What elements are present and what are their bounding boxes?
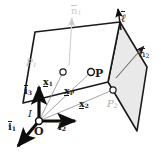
point-p-marker	[88, 69, 95, 76]
origin-label: O	[34, 126, 44, 137]
diagram-canvas	[0, 0, 161, 157]
point-on-plane-1-marker	[60, 69, 66, 75]
reference-frame-label: I	[28, 109, 32, 119]
axis-i1-label: i1	[8, 122, 16, 133]
axis-i2-label: i2	[58, 122, 66, 133]
geometry-diagram-figure: n1 n2 ℓ P1 P2 P x1 xP x2 i1 i2 i3 I O	[0, 0, 161, 157]
axis-i3-label: i3	[24, 86, 32, 97]
point-p-label: P	[95, 68, 103, 79]
plane-2-label: P2	[107, 99, 118, 110]
position-vector-x1-label: x1	[43, 77, 53, 87]
normal-1-label: n1	[71, 6, 81, 17]
normal-2-label: n2	[139, 49, 149, 60]
point-on-plane-2-marker	[110, 87, 116, 93]
line-direction-label: ℓ	[121, 13, 126, 24]
position-vector-x2-label: x2	[79, 99, 89, 109]
position-vector-xp-label: xP	[64, 86, 74, 96]
origin-marker	[36, 118, 43, 125]
plane-1-label: P1	[26, 58, 37, 69]
